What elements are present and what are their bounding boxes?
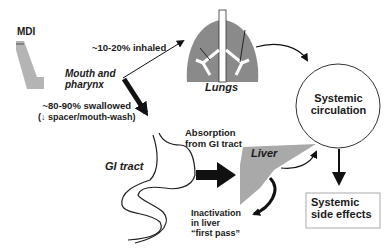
lungs-icon — [187, 10, 258, 82]
circulation-label-line2: circulation — [310, 104, 367, 116]
mouth-label-line1: Mouth and — [65, 68, 116, 79]
inactivation-label-line2: in liver — [191, 218, 241, 228]
lungs-label: Lungs — [205, 81, 238, 93]
systemic-circulation-label: Systemic circulation — [310, 92, 367, 117]
swallowed-label: ~80-90% swallowed (↓ spacer/mouth-wash) — [38, 101, 136, 122]
absorption-arrow — [196, 162, 236, 188]
inactivation-label: Inactivation in liver “first pass” — [191, 208, 241, 238]
side-effects-label-line2: side effects — [311, 208, 372, 220]
lungs-to-circulation-arrow — [256, 44, 307, 60]
inactivation-label-line3: “first pass” — [191, 228, 241, 238]
swallowed-label-line2: (↓ spacer/mouth-wash) — [38, 112, 136, 122]
circulation-label-line1: Systemic — [310, 92, 367, 104]
swallowed-label-line1: ~80-90% swallowed — [38, 101, 136, 112]
liver-label: Liver — [251, 147, 277, 159]
mouth-pharynx-label: Mouth and pharynx — [65, 68, 116, 90]
inactivation-label-line1: Inactivation — [191, 208, 241, 218]
absorption-label-line2: from GI tract — [185, 139, 242, 150]
mouth-label-line2: pharynx — [65, 79, 116, 90]
mdi-label: MDI — [17, 26, 35, 37]
side-effects-label: Systemic side effects — [311, 196, 372, 221]
absorption-label: Absorption from GI tract — [185, 128, 242, 149]
gi-tract-icon — [122, 133, 195, 243]
gi-tract-label: GI tract — [105, 160, 144, 172]
side-effects-label-line1: Systemic — [311, 196, 372, 208]
mdi-inhaler-icon — [16, 41, 44, 89]
inhaled-label: ~10-20% inhaled — [92, 43, 166, 54]
